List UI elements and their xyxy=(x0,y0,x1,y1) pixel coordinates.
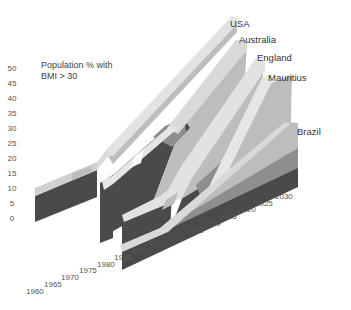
x-tick: 1985 xyxy=(114,253,132,262)
label-usa: USA xyxy=(230,18,250,29)
y-axis: 50 45 40 35 30 25 20 15 10 5 0 xyxy=(8,64,17,223)
x-tick: 1990 xyxy=(132,246,150,255)
x-tick: 1995 xyxy=(149,239,167,248)
y-label-line-1: Population % with xyxy=(41,60,113,70)
y-tick: 40 xyxy=(8,94,17,103)
y-tick: 50 xyxy=(8,64,17,73)
x-tick: 2025 xyxy=(255,199,273,208)
x-tick: 1960 xyxy=(26,287,44,296)
x-tick: 2030 xyxy=(275,192,293,201)
x-tick: 2005 xyxy=(186,226,204,235)
y-tick: 10 xyxy=(8,184,17,193)
label-brazil: Brazil xyxy=(297,126,321,137)
label-australia: Australia xyxy=(239,34,277,45)
x-tick: 2015 xyxy=(219,212,237,221)
x-tick: 2020 xyxy=(238,205,256,214)
x-tick: 2000 xyxy=(166,232,184,241)
y-tick: 30 xyxy=(8,124,17,133)
label-england: England xyxy=(257,52,292,63)
x-tick: 1965 xyxy=(44,280,62,289)
y-label-line-2: BMI > 30 xyxy=(41,71,77,81)
x-tick: 1980 xyxy=(97,260,115,269)
x-tick: 1975 xyxy=(79,266,97,275)
y-tick: 25 xyxy=(8,139,17,148)
y-tick: 35 xyxy=(8,109,17,118)
y-axis-label: Population % with BMI > 30 xyxy=(41,60,113,81)
y-tick: 45 xyxy=(8,79,17,88)
y-tick: 5 xyxy=(10,199,15,208)
y-tick: 0 xyxy=(10,214,15,223)
y-tick: 15 xyxy=(8,169,17,178)
x-tick: 1970 xyxy=(61,273,79,282)
obesity-ribbon-chart: 50 45 40 35 30 25 20 15 10 5 0 Populatio… xyxy=(0,0,351,310)
label-mauritius: Mauritius xyxy=(268,72,307,83)
y-tick: 20 xyxy=(8,154,17,163)
